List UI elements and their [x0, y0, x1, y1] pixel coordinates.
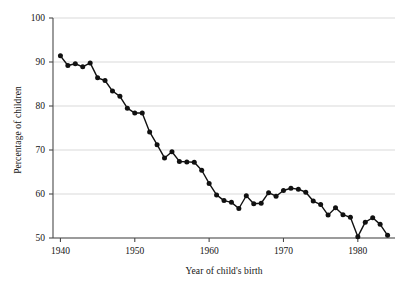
data-point — [274, 194, 279, 199]
data-point — [80, 64, 85, 69]
data-point — [340, 212, 345, 217]
data-point — [73, 61, 78, 66]
data-point — [259, 201, 264, 206]
axis-lines — [53, 18, 395, 238]
data-point — [110, 89, 115, 94]
x-tick-label: 1940 — [51, 246, 70, 256]
x-tick-label: 1970 — [274, 246, 293, 256]
data-point — [326, 213, 331, 218]
y-tick-label: 60 — [36, 189, 46, 199]
data-point — [363, 220, 368, 225]
data-point — [155, 142, 160, 147]
chart-figure: 5060708090100 19401950196019701980 Perce… — [0, 0, 412, 291]
data-point — [192, 160, 197, 165]
line-chart: 5060708090100 19401950196019701980 — [0, 0, 412, 291]
axis-ticks — [49, 18, 358, 242]
x-axis-title: Year of child's birth — [53, 266, 395, 276]
data-point — [125, 106, 130, 111]
y-tick-labels: 5060708090100 — [31, 13, 46, 243]
data-point — [281, 188, 286, 193]
data-point — [132, 111, 137, 116]
data-point — [229, 200, 234, 205]
x-tick-labels: 19401950196019701980 — [51, 246, 368, 256]
y-tick-label: 90 — [36, 57, 46, 67]
data-point — [355, 234, 360, 239]
data-point — [184, 159, 189, 164]
data-point — [296, 187, 301, 192]
x-tick-label: 1960 — [200, 246, 219, 256]
data-point — [147, 129, 152, 134]
data-point — [303, 190, 308, 195]
data-point — [266, 190, 271, 195]
x-tick-label: 1950 — [125, 246, 144, 256]
data-point — [244, 193, 249, 198]
data-point — [378, 222, 383, 227]
data-point — [251, 201, 256, 206]
data-point — [65, 63, 70, 68]
data-point — [318, 202, 323, 207]
data-point — [88, 60, 93, 65]
data-point — [311, 199, 316, 204]
x-tick-label: 1980 — [348, 246, 367, 256]
data-point — [385, 233, 390, 238]
data-point — [177, 159, 182, 164]
y-tick-label: 100 — [31, 13, 46, 23]
data-point — [95, 75, 100, 80]
y-tick-label: 50 — [36, 233, 46, 243]
data-point — [169, 149, 174, 154]
data-point — [348, 215, 353, 220]
data-point — [207, 181, 212, 186]
data-point — [214, 192, 219, 197]
data-point — [370, 215, 375, 220]
data-point — [140, 111, 145, 116]
data-point — [288, 186, 293, 191]
data-point — [58, 53, 63, 58]
y-tick-label: 80 — [36, 101, 46, 111]
data-point — [333, 205, 338, 210]
data-point — [222, 198, 227, 203]
gridlines — [53, 18, 395, 238]
data-series-line — [60, 56, 387, 237]
data-point — [103, 78, 108, 83]
series-polyline — [60, 56, 387, 237]
data-point — [162, 155, 167, 160]
y-axis-title: Percentage of children — [13, 50, 23, 210]
data-point — [199, 168, 204, 173]
y-tick-label: 70 — [36, 145, 46, 155]
data-point — [236, 206, 241, 211]
data-point — [117, 94, 122, 99]
